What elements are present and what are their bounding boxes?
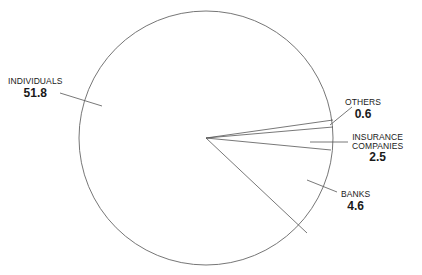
label-others-name: OTHERS — [345, 98, 381, 107]
label-banks: BANKS 4.6 — [341, 190, 370, 212]
label-insurance-name-2: COMPANIES — [352, 142, 403, 151]
label-others-value: 0.6 — [345, 108, 381, 120]
label-banks-value: 4.6 — [341, 200, 370, 212]
label-others: OTHERS 0.6 — [345, 98, 381, 120]
label-insurance-value: 2.5 — [352, 151, 403, 163]
label-individuals: INDIVIDUALS 51.8 — [8, 77, 62, 99]
label-insurance: INSURANCE COMPANIES 2.5 — [352, 133, 403, 163]
label-individuals-name: INDIVIDUALS — [8, 77, 62, 86]
label-individuals-value: 51.8 — [8, 87, 62, 99]
label-banks-name: BANKS — [341, 190, 370, 199]
